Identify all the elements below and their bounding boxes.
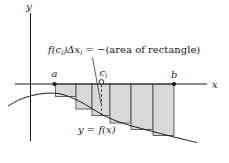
point-b-dot — [172, 82, 176, 86]
figure-canvas: y x a b ci f(ci)Δxi = −(area of rectangl… — [0, 0, 229, 163]
point-b-label: b — [171, 69, 177, 80]
riemann-rectangle — [110, 84, 131, 123]
riemann-rectangle — [153, 84, 174, 136]
c-i-marker — [99, 80, 104, 85]
y-axis-label: y — [25, 1, 32, 12]
annotation-label: f(ci)Δxi = −(area of rectangle) — [47, 44, 200, 57]
riemann-rectangle — [131, 84, 153, 130]
point-a-label: a — [52, 68, 58, 79]
c-i-label: ci — [100, 67, 108, 80]
riemann-sum-figure: y x a b ci f(ci)Δxi = −(area of rectangl… — [0, 0, 229, 163]
riemann-rectangle — [76, 84, 92, 109]
riemann-rectangle — [56, 84, 77, 97]
curve-label: y = f(x) — [77, 124, 116, 135]
point-a-dot — [52, 82, 56, 86]
x-axis-label: x — [212, 79, 218, 90]
